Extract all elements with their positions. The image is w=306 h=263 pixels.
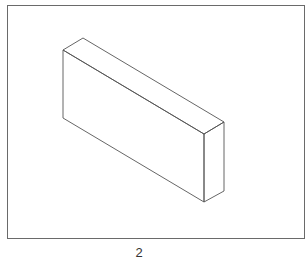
isometric-block-drawing [0,0,306,263]
block-top-face [63,38,224,134]
block-front-face [63,50,204,202]
figure-caption: 2 [0,245,278,260]
block-side-face [204,122,224,202]
